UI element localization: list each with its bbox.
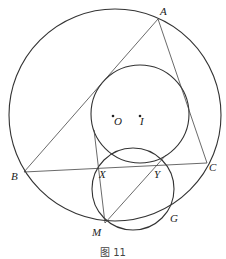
label-A: A xyxy=(159,5,167,17)
segment-AB xyxy=(24,19,158,172)
geometry-diagram: A B C X Y M G O I 图 11 xyxy=(0,0,226,259)
label-C: C xyxy=(209,161,217,173)
figure-caption: 图 11 xyxy=(100,247,126,258)
label-O: O xyxy=(114,115,122,127)
segment-AC xyxy=(158,19,207,163)
label-B: B xyxy=(11,170,18,182)
segment-BC xyxy=(24,163,207,172)
label-X: X xyxy=(98,168,107,180)
label-I: I xyxy=(139,115,145,127)
label-Y: Y xyxy=(154,168,162,180)
label-G: G xyxy=(170,212,178,224)
label-M: M xyxy=(91,226,102,238)
